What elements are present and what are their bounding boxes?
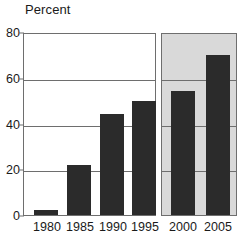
y-axis-tick-mark (19, 78, 24, 79)
bar (67, 165, 91, 215)
x-axis-tick-label: 1980 (33, 220, 61, 234)
bars-historical (23, 34, 155, 215)
x-axis-tick-label: 1995 (131, 220, 159, 234)
y-axis-tick-label: 80 (0, 26, 20, 40)
bar (171, 91, 195, 215)
y-axis-tick-mark (19, 33, 24, 34)
y-axis-tick-mark (19, 216, 24, 217)
panel-historical (23, 33, 156, 216)
x-axis-tick-label: 1990 (99, 220, 127, 234)
x-axis-tick-label: 2005 (204, 220, 232, 234)
y-axis-tick-label: 60 (0, 72, 20, 86)
bar (206, 55, 230, 215)
bar-chart: Percent 806040200 1980198519901995200020… (0, 0, 238, 246)
y-axis-tick-mark (19, 170, 24, 171)
y-axis-ticks: 806040200 (0, 0, 20, 246)
bar (34, 210, 58, 215)
y-axis-tick-label: 40 (0, 118, 20, 132)
x-axis-ticks: 198019851990199520002005 (0, 220, 238, 242)
y-axis-title: Percent (25, 2, 71, 17)
y-axis-tick-mark (19, 124, 24, 125)
bars-projected (162, 34, 236, 215)
panel-projected (161, 33, 237, 216)
bar (100, 114, 124, 215)
bar (132, 101, 156, 215)
x-axis-tick-label: 1985 (66, 220, 94, 234)
x-axis-tick-label: 2000 (169, 220, 197, 234)
y-axis-tick-label: 20 (0, 163, 20, 177)
